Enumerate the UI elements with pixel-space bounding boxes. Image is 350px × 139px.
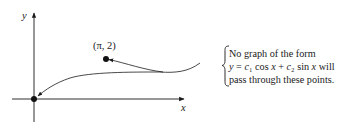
curve: [38, 63, 200, 96]
point-label: (π, 2): [93, 40, 116, 51]
pi-2-point: [103, 56, 109, 62]
curly-brace: [222, 46, 229, 86]
annotation-line-2: y = c₁ cos x + c₂ sin x will: [229, 60, 335, 73]
x-axis-label: x: [181, 102, 186, 113]
arrow-to-point: [109, 60, 163, 73]
annotation-line-3: pass through these points.: [229, 73, 335, 86]
annotation-text: No graph of the form y = c₁ cos x + c₂ s…: [229, 47, 335, 86]
annotation-line-1: No graph of the form: [229, 47, 335, 60]
y-axis-label: y: [22, 10, 27, 21]
origin-point: [31, 96, 37, 102]
